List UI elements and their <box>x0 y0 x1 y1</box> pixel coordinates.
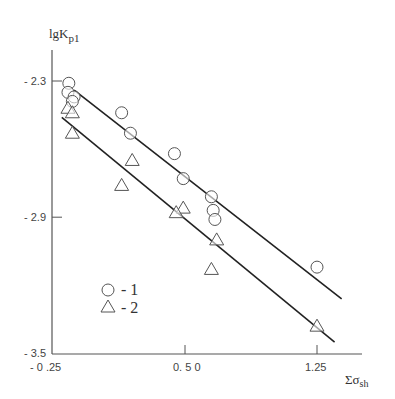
triangle-marker <box>115 178 129 190</box>
circle-marker <box>124 127 136 139</box>
triangle-marker <box>310 319 324 331</box>
y-axis-label: lgKp1 <box>49 26 80 44</box>
x-axis-label: Σσsh <box>345 372 368 389</box>
legend-circle-icon <box>102 284 114 296</box>
triangle-marker <box>65 126 79 138</box>
x-tick-label: 1.25 <box>305 361 326 373</box>
y-tick-label: - 2.9 <box>24 211 46 223</box>
circle-marker <box>311 261 323 273</box>
legend: - 1 - 2 <box>101 281 138 316</box>
y-tick-label: - 2.3 <box>24 75 46 87</box>
scatter-chart: - 0 .250. 5 01.25- 2.3- 2.9- 3.5 lgKp1 Σ… <box>0 0 395 399</box>
x-tick-label: - 0 .25 <box>30 361 61 373</box>
triangle-marker <box>204 262 218 274</box>
x-tick-label: 0. 5 0 <box>173 361 201 373</box>
triangle-marker <box>210 233 224 245</box>
circle-marker <box>209 213 221 225</box>
y-tick-label: - 3.5 <box>24 347 46 359</box>
legend-label-2: - 2 <box>121 299 138 316</box>
triangle-marker <box>125 153 139 165</box>
circle-marker <box>116 107 128 119</box>
circle-marker <box>205 191 217 203</box>
circle-marker <box>168 148 180 160</box>
legend-label-1: - 1 <box>121 281 138 298</box>
circle-marker <box>177 173 189 185</box>
legend-triangle-icon <box>101 300 115 312</box>
